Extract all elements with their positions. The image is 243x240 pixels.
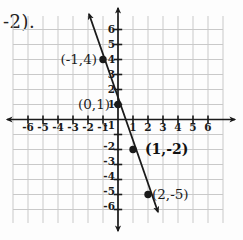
x-tick-label: -6 <box>22 121 34 133</box>
y-tick-label: -6 <box>103 200 115 212</box>
x-tick-label: 2 <box>144 121 151 133</box>
data-point <box>129 146 136 153</box>
point-label: (0,1) <box>78 96 110 112</box>
y-tick-label: -4 <box>103 170 115 182</box>
x-tick-label: -3 <box>67 121 79 133</box>
point-label: (-1,4) <box>60 51 97 67</box>
y-tick-label: 4 <box>108 53 115 65</box>
x-tick-label: -2 <box>82 121 94 133</box>
x-tick-label: 6 <box>204 121 211 133</box>
x-tick-label: 3 <box>159 121 166 133</box>
x-tick-label: -4 <box>52 121 64 133</box>
point-label: (2,-5) <box>152 186 189 202</box>
x-tick-label: -5 <box>37 121 49 133</box>
axis-tick-labels: -6-5-4-3-2-1123456654321-1-2-3-4-5-6 <box>22 23 211 212</box>
data-point <box>144 191 151 198</box>
y-tick-label: -2 <box>103 140 115 152</box>
axes <box>7 8 235 231</box>
y-tick-label: -1 <box>103 119 115 131</box>
y-tick-label: -3 <box>103 155 115 167</box>
x-tick-label: 4 <box>174 121 181 133</box>
data-point <box>99 56 106 63</box>
x-tick-label: 5 <box>189 121 196 133</box>
y-tick-label: 6 <box>108 23 115 35</box>
y-tick-label: 5 <box>108 38 115 50</box>
data-point <box>114 101 121 108</box>
point-label: (1,-2) <box>145 141 188 157</box>
coordinate-plane: -6-5-4-3-2-1123456654321-1-2-3-4-5-6 (-1… <box>0 0 243 240</box>
graph-area: -2). -6-5-4-3-2-1123456654321-1-2-3-4-5-… <box>0 0 243 240</box>
y-tick-label: -5 <box>103 185 115 197</box>
